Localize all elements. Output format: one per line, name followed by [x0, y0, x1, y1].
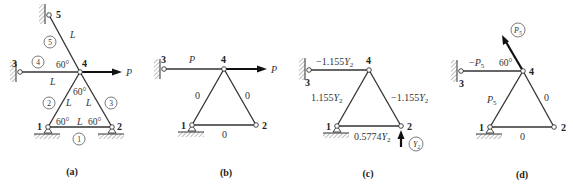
svg-text:1: 1 [77, 135, 81, 144]
pin-node-2 [254, 123, 259, 128]
node-label-2: 2 [407, 121, 412, 132]
node-label-2: 2 [561, 122, 566, 133]
pin-node-2 [110, 125, 115, 130]
pin-node-3 [459, 69, 464, 74]
force-label-member-3-4: −1.155Y2 [316, 56, 354, 69]
wall-support-node-3 [154, 59, 160, 79]
node-label-3: 3 [12, 58, 17, 69]
force-label-member-2-4: 0 [245, 90, 250, 101]
pin-node-2 [552, 125, 557, 130]
pin-node-2 [399, 124, 404, 129]
svg-text:2: 2 [47, 99, 51, 108]
node-label-5: 5 [56, 9, 61, 20]
length-label-member-5: L [69, 29, 76, 40]
pin-node-4 [222, 67, 227, 72]
force-label-member-3-4: −P5 [469, 57, 485, 70]
pin-node-1 [335, 124, 340, 129]
length-label-member-1: L [76, 116, 83, 127]
pin-node-5 [47, 13, 52, 18]
load-arrowhead [112, 69, 122, 76]
node-label-3: 3 [459, 78, 464, 89]
length-label-member-3: L [85, 97, 92, 108]
redundant-force-label: Y2 [409, 137, 423, 151]
pin-node-1 [488, 125, 493, 130]
pin-node-3 [307, 68, 312, 73]
svg-text:P5: P5 [513, 26, 522, 36]
angle-label-2: 60° [88, 117, 102, 127]
panel-c: Y2 3 4 1 2 −1.155Y2 1.155Y2 −1.155Y2 0.5… [299, 55, 429, 180]
member-number-2: 2 [43, 97, 55, 109]
force-label-member-2-4: 0 [544, 92, 549, 103]
member-2-4 [523, 71, 554, 127]
wall-support-node-3 [451, 60, 457, 82]
force-label-member-1-4: 1.155Y2 [311, 92, 343, 105]
caption-a: (a) [66, 166, 78, 178]
pin-node-1 [46, 125, 51, 130]
pin-node-4 [78, 70, 83, 75]
member-2-4 [224, 69, 256, 125]
length-label-member-4: L [49, 76, 56, 87]
force-label-member-2-4: −1.155Y2 [391, 92, 429, 105]
force-label-member-1-4: 0 [195, 90, 200, 101]
caption-c: (c) [362, 168, 373, 180]
pin-node-3 [162, 67, 167, 72]
redundant-force-label: P5 [511, 23, 525, 37]
force-label-member-1-4: P5 [486, 94, 497, 107]
member-number-4: 4 [32, 56, 44, 68]
angle-label-4-top: 60° [56, 60, 70, 70]
node-label-4: 4 [221, 54, 226, 65]
force-label-member-1-2: 0 [520, 131, 525, 142]
wall-support-node-5 [39, 4, 45, 24]
node-label-1: 1 [326, 121, 331, 132]
svg-text:3: 3 [109, 99, 113, 108]
node-label-4: 4 [529, 66, 534, 77]
node-label-4: 4 [366, 55, 371, 66]
panel-d: P5 60° 3 4 1 2 −P5 P5 0 0 (d) [451, 23, 566, 181]
member-number-3: 3 [105, 97, 117, 109]
truss-figure: P 5 3 4 1 2 L L L L L 60° 60° 60° 60° 5 … [0, 0, 573, 189]
pin-node-4 [367, 68, 372, 73]
svg-text:5: 5 [48, 38, 52, 47]
node-label-4: 4 [82, 58, 87, 69]
member-number-1: 1 [73, 133, 85, 145]
force-label-member-1-2: 0 [222, 129, 227, 140]
panel-b: P 3 4 1 2 P 0 0 0 (b) [154, 54, 277, 179]
pin-node-3 [18, 70, 23, 75]
angle-label-4: 60° [499, 58, 513, 68]
svg-text:Y2: Y2 [413, 140, 420, 150]
node-label-1: 1 [37, 121, 42, 132]
force-label-member-3-4: P [188, 54, 195, 65]
member-number-5: 5 [44, 36, 56, 48]
node-label-3: 3 [305, 77, 310, 88]
load-label: P [125, 67, 132, 78]
force-label-member-1-2: 0.5774Y2 [354, 131, 391, 144]
pin-node-1 [190, 123, 195, 128]
panel-a: P 5 3 4 1 2 L L L L L 60° 60° 60° 60° 5 … [10, 4, 132, 178]
node-label-1: 1 [181, 120, 186, 131]
node-label-3: 3 [161, 54, 166, 65]
load-arrowhead [257, 66, 267, 73]
svg-text:4: 4 [36, 58, 40, 67]
load-label: P [270, 64, 277, 75]
redundant-force-arrowhead [398, 130, 405, 139]
angle-label-1: 60° [56, 117, 70, 127]
node-label-1: 1 [479, 122, 484, 133]
caption-b: (b) [220, 167, 232, 179]
length-label-member-2: L [65, 97, 72, 108]
angle-label-4-apex: 60° [73, 87, 87, 97]
node-label-2: 2 [262, 120, 267, 131]
caption-d: (d) [516, 169, 528, 181]
node-label-2: 2 [117, 121, 122, 132]
pin-node-4 [521, 69, 526, 74]
